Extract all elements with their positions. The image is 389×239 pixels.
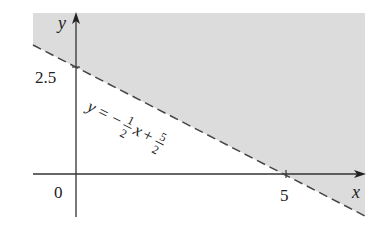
x-tick-label: 5 bbox=[280, 186, 289, 205]
eq-equals: = bbox=[95, 102, 112, 123]
inequality-graph: y x 2.5 5 0 y = − 1 2 x + 5 2 bbox=[0, 0, 389, 239]
y-axis-label: y bbox=[56, 13, 66, 33]
eq-frac2-den: 2 bbox=[150, 142, 162, 157]
x-axis-label: x bbox=[351, 182, 360, 202]
shaded-region bbox=[33, 13, 365, 216]
origin-label: 0 bbox=[54, 183, 63, 202]
eq-frac1-den: 2 bbox=[118, 126, 130, 141]
y-tick-label: 2.5 bbox=[35, 68, 56, 87]
